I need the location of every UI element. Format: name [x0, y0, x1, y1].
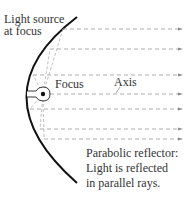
parabolic-reflector-curve [27, 17, 78, 183]
parallel-rays [30, 29, 180, 139]
axis-label: Axis [114, 75, 137, 89]
light-source-label-line2: at focus [4, 24, 42, 38]
caption-line2: Light is reflected [86, 161, 168, 175]
caption-line3: in parallel rays. [86, 176, 160, 190]
focus-point [41, 92, 45, 96]
light-bulb-icon [27, 87, 50, 101]
caption-line1: Parabolic reflector: [86, 146, 178, 160]
ray-arrowheads [178, 28, 183, 141]
parabolic-reflector-diagram: Light source at focus Focus Axis Parabol… [0, 0, 191, 197]
focus-label: Focus [55, 77, 84, 91]
